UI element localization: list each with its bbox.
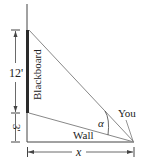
label-3ft: 3' [11,124,23,132]
dim-arrow-up-icon [14,31,18,37]
blackboard-angle-diagram: 12' 3' Blackboard Wall You α x [0,0,142,164]
label-x: x [75,145,82,159]
label-you: You [118,107,136,119]
dim-arrow-right-icon [127,150,133,154]
sight-line-top [29,30,134,142]
label-wall: Wall [73,129,94,141]
dim-arrow-down-icon [14,106,18,112]
label-alpha: α [98,117,104,129]
label-12ft: 12' [9,66,23,80]
label-blackboard: Blackboard [31,49,43,100]
dim-arrow-left-icon [28,150,34,154]
